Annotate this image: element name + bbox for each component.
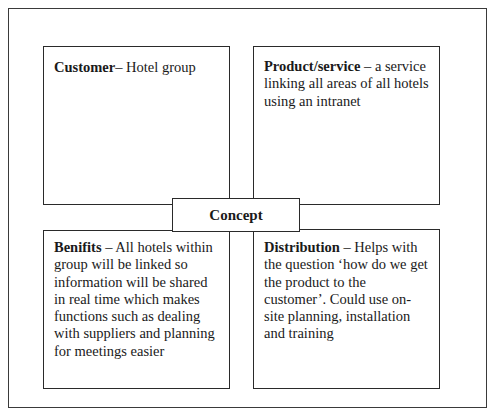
product-service-box: Product/service – a service linking all … [253,46,440,205]
concept-box: Concept [172,198,300,232]
distribution-title: Distribution [264,239,340,255]
distribution-separator: – [340,239,355,255]
distribution-box: Distribution – Helps with the question ‘… [253,229,440,389]
customer-text: Hotel group [126,59,196,75]
customer-box: Customer– Hotel group [43,46,230,205]
product-service-separator: – [360,58,375,74]
product-service-title: Product/service [264,58,360,74]
benefits-title: Benifits [54,239,102,255]
customer-title: Customer [54,59,115,75]
customer-separator: – [115,59,126,75]
benefits-box: Benifits – All hotels within group will … [43,230,230,389]
benefits-separator: – [102,239,116,255]
benefits-text: All hotels within group will be linked s… [54,239,215,359]
